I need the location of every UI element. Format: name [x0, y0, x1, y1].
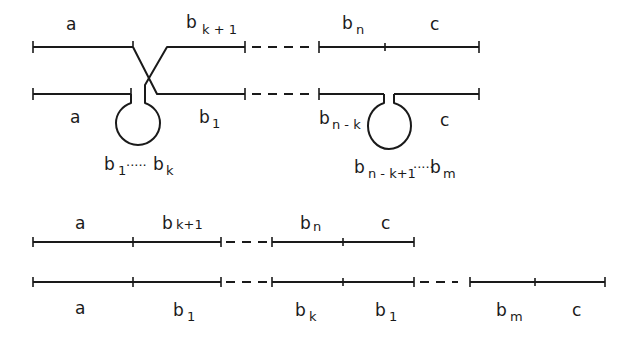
loop-left-start-base: b — [104, 154, 115, 174]
label-bk1-sub: k + 1 — [202, 22, 237, 37]
label-c-lower: c — [440, 110, 449, 130]
bottom-row2-b1b-base: b — [375, 300, 386, 320]
loop-left-end-base: b — [153, 154, 164, 174]
bottom-row2-bk-base: b — [295, 300, 306, 320]
bottom-row1-bk1-sub: k+1 — [176, 217, 203, 232]
bottom-row-1 — [33, 237, 414, 247]
loop-right-end-base: b — [430, 157, 441, 177]
loop-right-start-base: b — [354, 157, 365, 177]
bottom-row1-bn-base: b — [300, 213, 311, 233]
loop-right-start-sub: n - k+1 — [368, 166, 416, 181]
top-upper-strand — [33, 41, 479, 94]
bottom-row2-c: c — [572, 300, 581, 320]
label-bn-sub: n — [356, 22, 364, 37]
crossover-strand-up — [145, 47, 245, 88]
bottom-row1-bn-sub: n — [313, 219, 321, 234]
bottom-row2-b1-sub: 1 — [187, 309, 195, 324]
loop-left — [116, 88, 160, 145]
bottom-row2-a: a — [75, 298, 85, 318]
bottom-row2-bm-sub: m — [510, 309, 523, 324]
loop-left-dots: ····· — [126, 158, 147, 173]
label-b1-base: b — [199, 107, 210, 127]
loop-left-end-sub: k — [166, 163, 174, 178]
top-lower-strand — [33, 88, 479, 149]
bottom-row1-a: a — [75, 213, 85, 233]
crossover-strand-down — [133, 47, 245, 94]
label-b1-sub: 1 — [212, 116, 220, 131]
bottom-row2-bm-base: b — [496, 300, 507, 320]
bottom-row1-bk1-base: b — [162, 213, 173, 233]
bottom-row2-b1b-sub: 1 — [389, 309, 397, 324]
bottom-row1-c: c — [381, 213, 390, 233]
bottom-row2-b1-base: b — [173, 300, 184, 320]
loop-right-end-sub: m — [443, 166, 456, 181]
loop-right — [368, 94, 411, 149]
label-a-lower: a — [70, 107, 80, 127]
label-bk1-base: b — [186, 12, 197, 32]
label-bnk-sub: n - k — [332, 117, 361, 132]
bottom-row2-bk-sub: k — [309, 309, 317, 324]
label-bnk-base: b — [319, 108, 330, 128]
label-bn-base: b — [342, 13, 353, 33]
recombination-diagram: a b k + 1 b n c a b 1 b n - k c b 1 ····… — [0, 0, 635, 345]
label-a-top: a — [66, 14, 76, 34]
label-c-top: c — [430, 14, 439, 34]
bottom-row-2 — [33, 277, 605, 287]
